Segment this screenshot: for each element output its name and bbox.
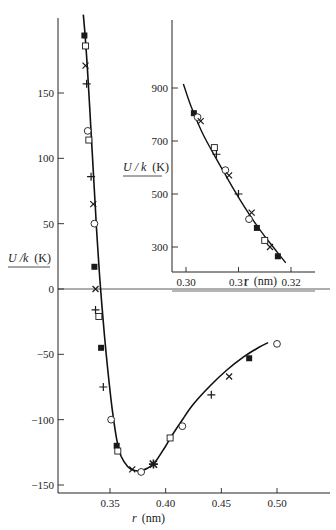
filled-square-marker-icon xyxy=(91,264,97,270)
filled-square-marker-icon xyxy=(98,345,104,351)
open-square-marker-icon xyxy=(83,43,89,49)
x-tick-label: 0.45 xyxy=(212,497,232,509)
x-tick-label: 0.40 xyxy=(156,497,176,509)
cross-marker-icon xyxy=(226,374,232,380)
open-square-marker-icon xyxy=(211,145,217,151)
inset-plot: 900700500300 0.300.310.32 U / k (K) r (n… xyxy=(123,20,315,291)
x-tick-label: 0.35 xyxy=(100,497,120,509)
plus-marker-icon xyxy=(99,383,107,391)
open-square-marker-icon xyxy=(167,435,173,441)
main-x-ticks: 0.350.400.450.50 xyxy=(100,488,287,509)
open-circle-marker-icon xyxy=(246,216,253,223)
asterisk-marker-icon xyxy=(149,460,158,469)
y-tick-label: 500 xyxy=(152,188,169,200)
filled-square-marker-icon xyxy=(275,253,281,259)
main-y-ticks: 150100500−50−100−150 xyxy=(31,87,64,491)
y-tick-label: 700 xyxy=(152,135,169,147)
filled-square-marker-icon xyxy=(81,33,87,39)
cross-marker-icon xyxy=(267,244,273,250)
y-tick-label: 150 xyxy=(38,87,55,99)
main-data-points xyxy=(81,33,280,476)
inset-x-ticks: 0.300.310.32 xyxy=(176,267,300,288)
potential-energy-chart: 150100500−50−100−150 0.350.400.450.50 U … xyxy=(0,0,336,530)
open-circle-marker-icon xyxy=(91,220,98,227)
x-tick-label: 0.30 xyxy=(176,276,196,288)
open-circle-marker-icon xyxy=(222,167,229,174)
y-tick-label: 50 xyxy=(43,218,55,230)
y-tick-label: −100 xyxy=(31,414,54,426)
main-plot: 150100500−50−100−150 0.350.400.450.50 U … xyxy=(8,15,330,525)
inset-x-label: r (nm) xyxy=(244,274,277,288)
y-tick-label: 900 xyxy=(152,82,169,94)
main-y-label: U /k (K) xyxy=(8,251,51,265)
y-tick-label: 300 xyxy=(152,241,169,253)
x-tick-label: 0.32 xyxy=(281,276,300,288)
open-square-marker-icon xyxy=(86,137,92,143)
open-circle-marker-icon xyxy=(274,340,281,347)
y-tick-label: −150 xyxy=(31,479,54,491)
open-square-marker-icon xyxy=(115,448,121,454)
plus-marker-icon xyxy=(207,391,215,399)
filled-square-marker-icon xyxy=(246,355,252,361)
plus-marker-icon xyxy=(83,80,91,88)
cross-marker-icon xyxy=(226,172,232,178)
y-tick-label: 100 xyxy=(38,152,55,164)
inset-y-label: U / k (K) xyxy=(123,160,169,174)
open-square-marker-icon xyxy=(262,237,268,243)
main-fit-curve xyxy=(83,15,268,471)
cross-marker-icon xyxy=(249,210,255,216)
y-tick-label: −50 xyxy=(37,348,55,360)
inset-data-points xyxy=(191,110,281,259)
inset-fit-curve xyxy=(183,84,285,263)
plus-marker-icon xyxy=(92,306,100,314)
y-tick-label: 0 xyxy=(49,283,55,295)
x-tick-label: 0.50 xyxy=(267,497,287,509)
open-circle-marker-icon xyxy=(108,416,115,423)
open-square-marker-icon xyxy=(96,313,102,319)
open-circle-marker-icon xyxy=(84,127,91,134)
filled-square-marker-icon xyxy=(254,225,260,231)
plus-marker-icon xyxy=(235,190,243,198)
open-circle-marker-icon xyxy=(138,469,145,476)
open-circle-marker-icon xyxy=(179,423,186,430)
main-x-label: r (nm) xyxy=(132,511,165,525)
plus-marker-icon xyxy=(212,150,220,158)
